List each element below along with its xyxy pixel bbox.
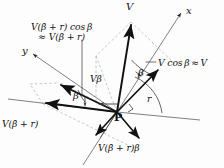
dashed-V-to-vbeta [96, 22, 131, 56]
label-y-axis: y [22, 46, 28, 57]
label-angle-r: r [147, 94, 151, 104]
label-angle-beta-top: β [138, 68, 144, 79]
dashed-left-top [30, 83, 58, 84]
label-angle-beta-left: β [73, 91, 79, 102]
label-x-axis: x [186, 6, 192, 17]
lower-left-guide [83, 112, 117, 165]
label-origin-P: P [114, 112, 122, 124]
y-axis-negative [117, 112, 200, 120]
label-v-beta: Vβ [90, 74, 102, 84]
label-v-cos-beta: V cos β ≈ V [158, 58, 207, 68]
vector-diagram-figure: V x y V cos β ≈ V V(β̇ + r) cos β ≈ V(β̇… [0, 0, 224, 168]
label-v-betadot-r: V(β̇ + r) [2, 119, 38, 129]
label-v-betadot-r-cos-beta: V(β̇ + r) cos β ≈ V(β̇ + r) [31, 22, 92, 42]
label-velocity: V [126, 2, 133, 13]
dashed-left-upper [30, 84, 43, 104]
angle-arcs [78, 60, 162, 113]
label-v-betadot-r-beta: V(β̇ + r)β [98, 143, 139, 153]
label-v-betadot-r-cos-beta-line2: ≈ V(β̇ + r) [31, 32, 92, 42]
main-vectors [46, 25, 158, 138]
right-angle-marker [128, 104, 133, 112]
